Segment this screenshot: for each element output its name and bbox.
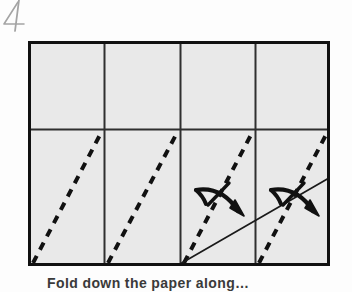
figure-caption-strip: Fold down the paper along… (0, 278, 352, 292)
scanned-page: Fold down the paper along… (0, 0, 352, 292)
paper-texture-overlay (28, 41, 330, 266)
origami-fold-figure (0, 0, 352, 292)
figure-caption-text: Fold down the paper along… (47, 278, 250, 291)
